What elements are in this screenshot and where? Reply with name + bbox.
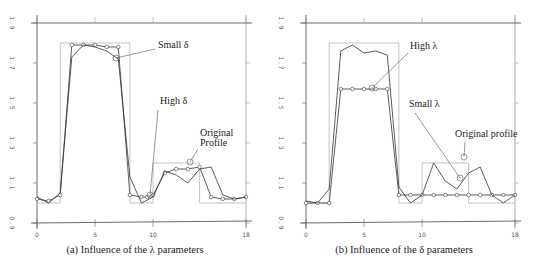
caption-a: (a) Influence of the λ parameters <box>0 244 270 255</box>
data-marker <box>116 45 120 49</box>
chart-a-svg: 0 , 91 , 11 , 31 , 51 , 71 , 9051018Smal… <box>0 0 270 270</box>
data-marker <box>327 201 331 205</box>
y-tick-label: 0 , 9 <box>9 216 16 230</box>
data-marker <box>444 193 448 197</box>
x-tick-label: 10 <box>418 231 426 238</box>
data-marker <box>304 201 308 205</box>
data-marker <box>409 193 413 197</box>
chart-panel-a: 0 , 91 , 11 , 31 , 51 , 71 , 9051018Smal… <box>0 0 270 270</box>
y-tick-label: 1 , 1 <box>278 176 285 190</box>
annotation-label: Small λ <box>409 98 440 109</box>
data-marker <box>128 193 132 197</box>
x-tick-label: 10 <box>149 231 157 238</box>
y-tick-label: 1 , 7 <box>9 56 16 70</box>
data-marker <box>105 45 109 49</box>
data-marker <box>70 43 74 47</box>
data-marker <box>186 167 190 171</box>
data-marker <box>175 167 179 171</box>
plot-area: 0 , 91 , 11 , 31 , 51 , 71 , 9051018Smal… <box>9 15 252 238</box>
x-tick-label: 5 <box>93 231 97 238</box>
annotation-label: High λ <box>410 40 438 51</box>
series-small- <box>37 45 246 201</box>
data-marker <box>467 193 471 197</box>
data-marker <box>339 87 343 91</box>
data-marker <box>209 195 213 199</box>
y-tick-label: 1 , 9 <box>9 16 16 30</box>
x-tick-label: 18 <box>511 231 519 238</box>
y-tick-label: 1 , 9 <box>278 16 285 30</box>
chart-panel-b: 0 , 91 , 11 , 31 , 51 , 71 , 9051018High… <box>269 0 539 270</box>
data-marker <box>502 193 506 197</box>
y-tick-label: 1 , 5 <box>9 96 16 110</box>
y-tick-label: 1 , 3 <box>278 136 285 150</box>
annotation-label: Small δ <box>158 39 189 50</box>
series-original-profile <box>37 43 246 203</box>
y-tick-label: 1 , 1 <box>9 176 16 190</box>
annotation-leader-line <box>464 142 465 157</box>
x-tick-label: 0 <box>35 231 39 238</box>
y-tick-label: 1 , 3 <box>9 136 16 150</box>
annotation-leader-line <box>116 49 155 58</box>
data-marker <box>351 87 355 91</box>
data-marker <box>478 193 482 197</box>
series-high- <box>37 45 246 203</box>
annotation-leader-line <box>190 149 198 162</box>
y-tick-label: 1 , 7 <box>278 56 285 70</box>
x-axis <box>31 221 252 223</box>
data-marker <box>221 197 225 201</box>
annotation-leader-line <box>150 110 158 195</box>
data-marker <box>432 193 436 197</box>
plot-area: 0 , 91 , 11 , 31 , 51 , 71 , 9051018High… <box>278 15 521 238</box>
annotation-label: Profile <box>200 137 228 148</box>
data-marker <box>93 43 97 47</box>
data-marker <box>198 165 202 169</box>
data-marker <box>140 195 144 199</box>
x-tick-label: 18 <box>242 231 250 238</box>
annotation-label: High δ <box>160 95 188 106</box>
x-tick-label: 0 <box>304 231 308 238</box>
data-marker <box>455 193 459 197</box>
y-tick-label: 1 , 5 <box>278 96 285 110</box>
caption-b: (b) Influence of the δ parameters <box>269 244 539 255</box>
x-tick-label: 5 <box>362 231 366 238</box>
annotation-label: Original profile <box>455 128 518 139</box>
y-tick-label: 0 , 9 <box>278 216 285 230</box>
data-marker <box>397 193 401 197</box>
chart-b-svg: 0 , 91 , 11 , 31 , 51 , 71 , 9051018High… <box>269 0 539 270</box>
data-marker <box>362 87 366 91</box>
x-axis <box>300 221 521 223</box>
data-marker <box>374 87 378 91</box>
data-marker <box>385 87 389 91</box>
